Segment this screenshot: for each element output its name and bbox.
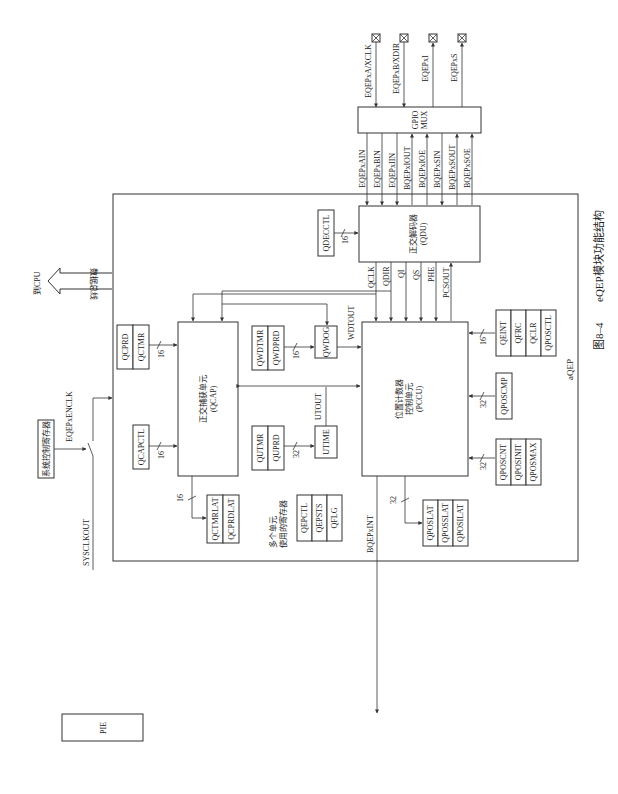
caption-number: 图8–4 [593,322,605,350]
svg-text:QCAPCTL: QCAPCTL [137,429,146,466]
svg-text:16: 16 [292,351,301,359]
qcap-period-registers: QCPRD QCTMR 16 [117,325,177,369]
qdu-outputs: QCLK QDIR QI QS PHE PCSOUT [193,262,451,321]
svg-text:QWDTMR: QWDTMR [256,329,265,366]
svg-text:QPOSCMP: QPOSCMP [500,377,509,415]
shared-registers: 多个单元 使用的寄存器 QEPCTL QEPSTS QFLG [268,495,342,548]
pin-icon [400,34,408,42]
signal-label: QS [412,270,421,280]
svg-text:32: 32 [292,450,301,458]
data-bus-arrow-icon [48,268,112,294]
svg-text:32: 32 [479,462,488,470]
svg-text:QEPCTL: QEPCTL [300,503,309,533]
svg-text:QPOSCTL: QPOSCTL [544,315,553,351]
qdecctl-register: QDECCTL 16 [318,210,358,256]
enclk-label: EQEPxENCLK [65,391,74,442]
svg-text:16: 16 [157,451,166,459]
svg-text:QWDOG: QWDOG [322,326,331,357]
signal-label: BQEPxSIN [433,150,442,188]
signal-label: BQEPxSOUT [448,145,457,190]
qcapctl-register: QCAPCTL 16 [133,425,177,469]
svg-text:32: 32 [479,400,488,408]
qdu-name: 正交解码器 [408,214,418,254]
svg-text:QCTMR: QCTMR [137,332,146,361]
svg-text:QUTMR: QUTMR [256,433,265,463]
svg-text:QPOSLAT: QPOSLAT [426,505,435,540]
bus-width: 16 [341,236,350,244]
pccu-name-1: 位置计数器 [394,379,404,419]
pin-group: EQEPxA/XCLK EQEPxB/XDIR EQEPxI EQEPxS [364,34,466,107]
pin-label: EQEPxA/XCLK [364,44,373,98]
pie-label: PIE [99,722,108,734]
clock-enable: 系统控制寄存器 EQEPxENCLK SYSCLKOUT [38,391,112,570]
module-label: aQEP [565,359,575,380]
pin-label: EQEPxB/XDIR [392,42,401,94]
svg-text:QFLG: QFLG [330,507,339,528]
svg-text:QEPSTS: QEPSTS [315,504,324,533]
qcap-abbr: (QCAP) [209,385,218,412]
switch-icon [88,443,93,456]
qcap-latch-registers: QCTMRLAT QCPRDLAT 16 [176,476,239,543]
svg-text:QWDPRD: QWDPRD [272,330,281,365]
qcap-name: 正交捕获单元 [198,375,208,423]
signal-label: QDIR [382,266,391,286]
svg-text:QFRC: QFRC [514,323,523,344]
pin-icon [458,34,466,42]
pin-label: EQEPxI [421,55,430,82]
svg-text:QEINT: QEINT [499,321,508,345]
svg-text:32: 32 [389,496,398,504]
svg-text:QPOSCNT: QPOSCNT [499,444,508,481]
pccu-block: 位置计数器 控制单元 (PCCU) [362,322,468,476]
svg-text:QPOSSLAT: QPOSSLAT [441,503,450,543]
cpu-data-bus: 到CPU 数据总线 [33,268,112,300]
shared-label-1: 多个单元 [268,516,278,548]
figure-caption: 图8–4 eQEP模块功能结构 [592,210,605,350]
shared-label-2: 使用的寄存器 [278,500,288,548]
position-latch-registers: QPOSLAT QPOSSLAT QPOSILAT 32 [389,476,468,546]
qcap-block: 正交捕获单元 (QCAP) [178,322,238,476]
signal-label: PHE [427,267,436,282]
signal-label: QCLK [367,266,376,288]
to-cpu-label: 到CPU [33,271,42,295]
interrupt-label: BQEPxINT [366,515,375,553]
svg-text:QCTMRLAT: QCTMRLAT [211,497,220,540]
caption-text: eQEP模块功能结构 [592,210,605,302]
interrupt-registers: QEINT QFRC QCLR QPOSCTL 16 [469,310,556,356]
pccu-name-2: 控制单元 [404,383,414,415]
svg-text:QPOSMAX: QPOSMAX [529,442,538,481]
signal-label: EQEPxIIN [388,153,397,188]
signal-label: EQEPxAIN [358,150,367,188]
svg-text:UTIME: UTIME [322,429,331,454]
gpio-mux-label-2: MUX [420,110,429,129]
signal-label: PCSOUT [442,267,451,298]
pin-icon [429,34,437,42]
svg-text:QCPRDLAT: QCPRDLAT [227,498,236,539]
svg-text:QPOSINIT: QPOSINIT [514,444,523,481]
svg-text:16: 16 [157,350,166,358]
signal-label: BQEPxIOUT [403,146,412,190]
data-bus-label: 数据总线 [89,268,99,300]
sysctl-register: 系统控制寄存器 [41,421,51,477]
svg-text:QCPRD: QCPRD [121,333,130,360]
position-count-registers: QPOSCNT QPOSINIT QPOSMAX 32 [469,439,541,485]
utime-block: UTIME UTOUT [314,387,337,458]
signal-label: EQEPxBIN [373,150,382,188]
qdu-abbr: (QDU) [419,222,428,245]
eqep-diagram: EQEPxA/XCLK EQEPxB/XDIR EQEPxI EQEPxS GP… [0,0,618,794]
svg-text:16: 16 [176,494,185,502]
pccu-abbr: (PCCU) [415,386,424,413]
wdtout-label: WDTOUT [347,305,356,340]
svg-text:QDECCTL: QDECCTL [322,214,331,251]
utime-registers: QUTMR QUPRD 32 [252,426,314,470]
sysclkout-label: SYSCLKOUT [82,519,91,566]
svg-text:QPOSILAT: QPOSILAT [456,504,465,542]
svg-text:16: 16 [479,337,488,345]
svg-text:QCLR: QCLR [529,322,538,344]
gpio-mux-label-1: GPIO [411,110,420,129]
pin-icon [372,34,380,42]
qwdog-block: QWDOG WDTOUT [315,304,361,358]
utout-label: UTOUT [314,393,323,420]
signal-label: BQEPxSOE [463,148,472,188]
qwdog-registers: QWDTMR QWDPRD 16 [252,326,314,370]
pin-label: EQEPxS [450,54,459,82]
